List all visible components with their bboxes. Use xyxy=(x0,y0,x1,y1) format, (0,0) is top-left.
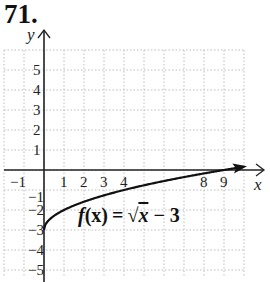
y-axis-label: y xyxy=(25,25,35,44)
y-tick-label: −3 xyxy=(28,222,44,238)
x-tick-label: −1 xyxy=(10,174,26,190)
x-tick-label: 1 xyxy=(60,174,68,190)
y-tick-label: −4 xyxy=(28,242,44,258)
function-label: f(x)=√x− 3 xyxy=(78,204,180,227)
y-tick-label: 3 xyxy=(33,102,41,118)
x-tick-label: 4 xyxy=(120,174,128,190)
x-axis-label: x xyxy=(253,175,262,194)
y-tick-label: −2 xyxy=(28,202,44,218)
y-tick-label: 4 xyxy=(33,82,41,98)
y-tick-label: 5 xyxy=(33,62,41,78)
y-tick-label: 1 xyxy=(33,142,41,158)
x-tick-label: 3 xyxy=(100,174,108,190)
x-tick-label: 2 xyxy=(80,174,88,190)
x-tick-label: 8 xyxy=(200,174,208,190)
y-tick-label: −5 xyxy=(28,262,44,278)
y-tick-label: 2 xyxy=(33,122,41,138)
function-graph: −112348954321−1−2−3−4−5 x y f(x)=√x− 3 xyxy=(0,0,270,282)
x-tick-label: 9 xyxy=(220,174,228,190)
